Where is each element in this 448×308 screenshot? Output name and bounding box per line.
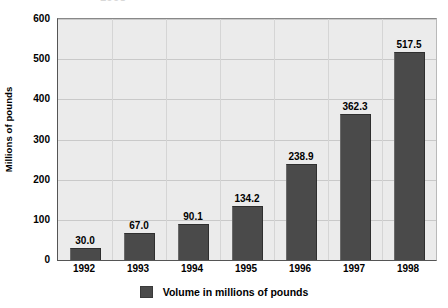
y-axis-tick-500: 500 bbox=[33, 53, 50, 64]
x-axis-tick-1998: 1998 bbox=[397, 263, 419, 274]
bar-value-label-1992: 30.0 bbox=[62, 235, 108, 246]
chart-legend: Volume in millions of pounds bbox=[0, 286, 448, 298]
bar-value-label-1995: 134.2 bbox=[224, 193, 270, 204]
x-axis-tick-1992: 1992 bbox=[73, 263, 95, 274]
y-axis-tick-labels: 0100200300400500600 bbox=[18, 0, 54, 308]
x-axis-tick-labels: 1992199319941995199619971998 bbox=[57, 263, 435, 279]
x-axis-tick-1995: 1995 bbox=[235, 263, 257, 274]
bar-1994 bbox=[178, 224, 209, 260]
bar-1996 bbox=[286, 164, 317, 260]
legend-swatch-icon bbox=[140, 286, 153, 298]
cropped-title-remnant: 1998 bbox=[100, 0, 180, 2]
y-axis-tick-400: 400 bbox=[33, 93, 50, 104]
x-axis-tick-1994: 1994 bbox=[181, 263, 203, 274]
y-axis-tick-300: 300 bbox=[33, 133, 50, 144]
bar-value-label-1998: 517.5 bbox=[386, 39, 432, 50]
x-axis-tick-1997: 1997 bbox=[343, 263, 365, 274]
x-axis-tick-1993: 1993 bbox=[127, 263, 149, 274]
bar-1998 bbox=[394, 52, 425, 260]
y-axis-tick-100: 100 bbox=[33, 213, 50, 224]
y-axis-tick-0: 0 bbox=[44, 254, 50, 265]
y-axis-tick-600: 600 bbox=[33, 13, 50, 24]
y-axis-tick-200: 200 bbox=[33, 173, 50, 184]
bar-series: 30.067.090.1134.2238.9362.3517.5 bbox=[58, 19, 436, 260]
bar-1993 bbox=[124, 233, 155, 260]
bar-1995 bbox=[232, 206, 263, 260]
legend-label: Volume in millions of pounds bbox=[163, 286, 309, 298]
x-axis-tick-1996: 1996 bbox=[289, 263, 311, 274]
bar-1997 bbox=[340, 114, 371, 260]
bar-1992 bbox=[70, 248, 101, 260]
bar-value-label-1994: 90.1 bbox=[170, 211, 216, 222]
plot-area: 30.067.090.1134.2238.9362.3517.5 bbox=[57, 18, 437, 261]
y-axis-title: Millions of pounds bbox=[0, 0, 18, 259]
bar-value-label-1993: 67.0 bbox=[116, 220, 162, 231]
y-axis-title-text: Millions of pounds bbox=[4, 87, 15, 173]
bar-value-label-1996: 238.9 bbox=[278, 151, 324, 162]
bar-value-label-1997: 362.3 bbox=[332, 101, 378, 112]
